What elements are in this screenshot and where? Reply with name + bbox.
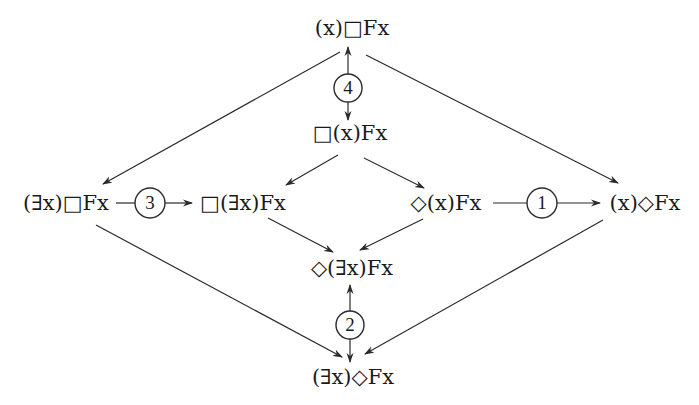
- edge-top-to-forall-dia: [366, 55, 618, 183]
- edge-box-exists-to-dia-exists: [268, 218, 333, 252]
- node-forall-diamond-fx: (x)◇Fx: [610, 191, 681, 215]
- edge-dia-forall-to-dia-exists: [360, 219, 423, 250]
- node-forall-box-fx: (x)□Fx: [315, 16, 389, 40]
- marker-label-2: 2: [345, 315, 355, 335]
- node-box-forall-fx: □(x)Fx: [313, 121, 387, 145]
- modal-logic-diagram: (x)□Fx □(x)Fx (∃x)□Fx □(∃x)Fx ◇(x)Fx (x)…: [0, 0, 699, 405]
- node-box-exists-fx: □(∃x)Fx: [200, 191, 286, 215]
- edge-box-forall-to-box-exists: [286, 155, 338, 185]
- edge-box-forall-to-dia-forall: [364, 158, 424, 188]
- node-diamond-exists-fx: ◇(∃x)Fx: [311, 256, 393, 280]
- node-exists-box-fx: (∃x)□Fx: [23, 191, 109, 215]
- marker-label-3: 3: [145, 193, 155, 213]
- node-exists-diamond-fx: (∃x)◇Fx: [312, 365, 394, 389]
- edge-forall-dia-to-bottom: [365, 220, 603, 354]
- edge-top-to-exists-box: [103, 52, 340, 184]
- edge-exists-box-to-bottom: [96, 225, 342, 357]
- node-diamond-forall-fx: ◇(x)Fx: [411, 191, 482, 215]
- marker-label-1: 1: [537, 193, 547, 213]
- marker-label-4: 4: [343, 78, 353, 98]
